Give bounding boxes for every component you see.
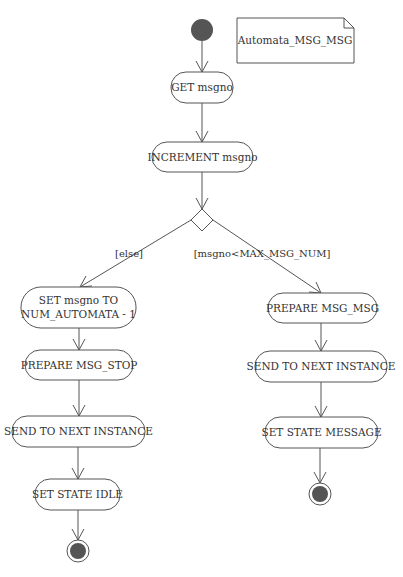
svg-text:SEND TO NEXT INSTANCE: SEND TO NEXT INSTANCE bbox=[247, 360, 396, 372]
svg-text:SEND TO NEXT INSTANCE: SEND TO NEXT INSTANCE bbox=[4, 425, 153, 437]
decision-node-icon bbox=[191, 209, 213, 231]
guard-else: [else] bbox=[115, 248, 143, 259]
svg-text:NUM_AUTOMATA - 1: NUM_AUTOMATA - 1 bbox=[21, 308, 136, 321]
action-set-state-message: SET STATE MESSAGE bbox=[261, 417, 381, 448]
svg-text:SET STATE IDLE: SET STATE IDLE bbox=[32, 488, 123, 500]
note: Automata_MSG_MSG bbox=[237, 18, 354, 63]
final-node-right-icon bbox=[309, 483, 331, 505]
svg-text:SET STATE MESSAGE: SET STATE MESSAGE bbox=[261, 426, 381, 438]
final-node-left-icon bbox=[67, 540, 89, 562]
svg-text:PREPARE MSG_STOP: PREPARE MSG_STOP bbox=[21, 359, 138, 372]
action-set-msgno: SET msgno TO NUM_AUTOMATA - 1 bbox=[21, 287, 136, 328]
action-prepare-msg-msg: PREPARE MSG_MSG bbox=[266, 293, 379, 323]
guard-less-than-max: [msgno<MAX_MSG_NUM] bbox=[194, 248, 331, 260]
activity-diagram: Automata_MSG_MSG GET msgno INCREMENT msg… bbox=[0, 0, 403, 577]
svg-text:PREPARE MSG_MSG: PREPARE MSG_MSG bbox=[266, 302, 379, 315]
svg-text:GET msgno: GET msgno bbox=[171, 81, 233, 93]
action-get-msgno: GET msgno bbox=[171, 72, 233, 103]
action-send-left: SEND TO NEXT INSTANCE bbox=[4, 416, 153, 447]
note-label: Automata_MSG_MSG bbox=[237, 34, 353, 47]
svg-text:INCREMENT msgno: INCREMENT msgno bbox=[147, 151, 257, 163]
action-prepare-msg-stop: PREPARE MSG_STOP bbox=[21, 350, 138, 380]
initial-node-icon bbox=[191, 19, 213, 41]
action-send-right: SEND TO NEXT INSTANCE bbox=[247, 351, 396, 382]
action-set-state-idle: SET STATE IDLE bbox=[32, 479, 123, 510]
svg-text:SET msgno TO: SET msgno TO bbox=[39, 294, 119, 306]
action-increment-msgno: INCREMENT msgno bbox=[147, 142, 257, 172]
